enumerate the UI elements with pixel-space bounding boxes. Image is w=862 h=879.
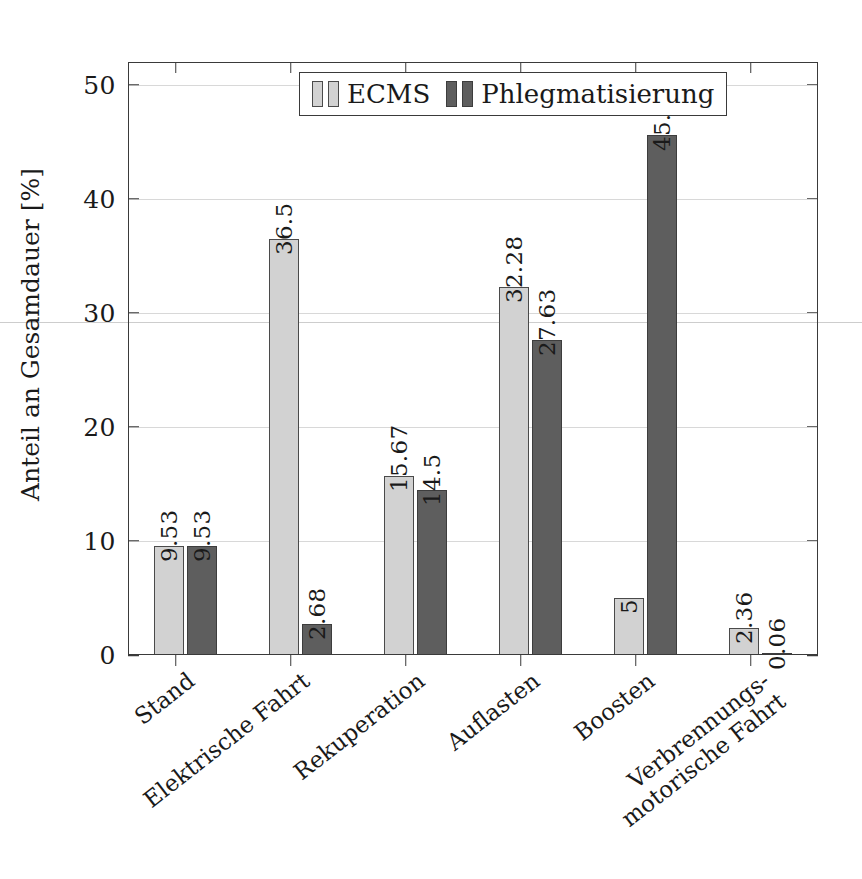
x-axis-tick-mark: [750, 655, 752, 666]
y-axis-tick-label: 40: [83, 186, 116, 211]
x-axis-tick-label: Boosten: [569, 668, 659, 746]
y-axis-tick-label: 20: [83, 414, 116, 439]
legend-swatch-icon: [312, 81, 323, 107]
legend-label: Phlegmatisierung: [481, 81, 714, 107]
y-axis-tick-mark: [128, 198, 139, 200]
legend-entry: Phlegmatisierung: [446, 81, 714, 107]
y-axis-tick-mark: [128, 426, 139, 428]
legend-swatch-icon: [446, 81, 457, 107]
x-axis-tick-mark: [405, 655, 407, 666]
x-axis-tick-mark: [290, 655, 292, 666]
legend-entry: ECMS: [312, 81, 430, 107]
x-axis-tick-mark-top: [750, 62, 752, 73]
x-axis-tick-mark: [520, 655, 522, 666]
y-axis-tick-label: 0: [100, 643, 116, 668]
legend-swatch-icon: [328, 81, 339, 107]
y-axis-tick-label: 30: [83, 300, 116, 325]
y-axis-tick-mark: [128, 84, 139, 86]
y-axis-tick-label: 10: [83, 528, 116, 553]
plot-frame: [128, 62, 818, 655]
y-axis-tick-label: 50: [83, 72, 116, 97]
x-axis-tick-mark: [635, 655, 637, 666]
y-axis-tick-mark: [128, 654, 139, 656]
x-axis-tick-label: Stand: [130, 668, 200, 730]
x-axis-tick-label: Auflasten: [442, 668, 544, 756]
legend-label: ECMS: [347, 81, 430, 107]
y-axis-tick-mark: [128, 540, 139, 542]
bar-chart-figure: Anteil an Gesamdauer [%] 01020304050 9.5…: [0, 0, 862, 879]
chart-legend: ECMSPhlegmatisierung: [299, 72, 727, 116]
x-axis-tick-mark-top: [290, 62, 292, 73]
legend-swatch-icon: [462, 81, 473, 107]
x-axis-tick-mark: [175, 655, 177, 666]
y-axis-tick-mark: [128, 312, 139, 314]
x-axis-tick-mark-top: [175, 62, 177, 73]
y-axis-title: Anteil an Gesamdauer [%]: [16, 100, 45, 570]
y-axis-tick-labels: 01020304050: [48, 62, 116, 655]
